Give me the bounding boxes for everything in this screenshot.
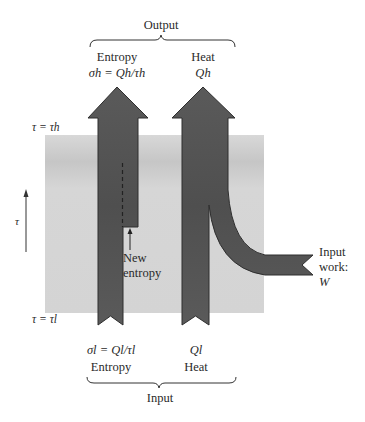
output-heat-title: Heat [191,51,215,64]
output-heat-formula: Qh [195,67,210,80]
work-label-symbol: W [319,276,329,289]
tau-axis-arrowhead-icon [24,189,29,197]
tau-low-label: τ = τl [32,314,57,326]
input-heat-title: Heat [184,361,208,374]
heat-pump-diagram [0,0,365,422]
input-entropy-formula: σl = Ql/τl [87,344,135,357]
tau-high-label: τ = τh [32,122,60,134]
input-brace [87,377,236,388]
input-heat-formula: Ql [190,344,203,357]
input-entropy-title: Entropy [91,361,131,374]
new-entropy-label-line1: New [123,252,147,265]
input-label: Input [147,392,173,405]
output-label: Output [144,19,179,32]
output-entropy-title: Entropy [97,51,137,64]
output-brace [90,35,235,47]
tau-axis-label: τ [15,216,19,227]
work-label-line1: Input [319,246,345,259]
work-label-line2: work: [319,261,348,274]
output-entropy-formula: σh = Qh/τh [89,67,146,80]
new-entropy-label-line2: entropy [123,267,161,280]
